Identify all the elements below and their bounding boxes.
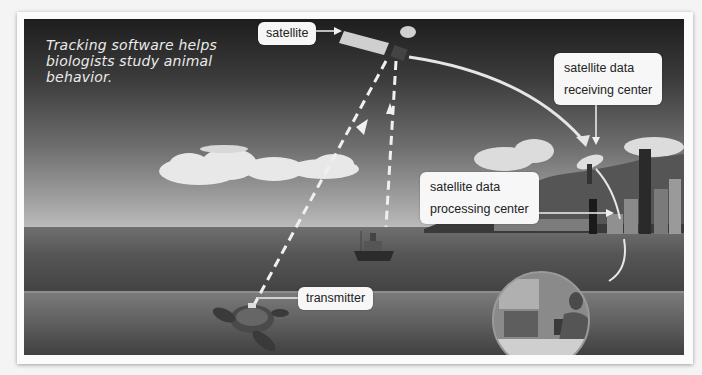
receiving-center-label: satellite data receiving center — [554, 53, 662, 105]
ship-icon — [354, 231, 394, 261]
tracking-diagram: Tracking software helps biologists study… — [24, 19, 684, 355]
transmitter-label: transmitter — [298, 287, 373, 310]
processing-center-line2: processing center — [430, 198, 529, 220]
uplink-arrow-1 — [356, 119, 368, 135]
receiving-center-line1: satellite data — [564, 57, 652, 79]
signal-paths — [254, 61, 396, 305]
processing-center-line1: satellite data — [430, 176, 529, 198]
processing-center-label: satellite data processing center — [420, 172, 539, 224]
processing-to-office-arrow — [609, 239, 625, 281]
receiving-center-line2: receiving center — [564, 79, 652, 101]
satellite-label: satellite — [258, 22, 316, 45]
downlink-arrowhead — [576, 135, 590, 147]
satellite-icon — [339, 26, 416, 61]
transmitter-label-text: transmitter — [306, 291, 365, 305]
diagram-caption: Tracking software helps biologists study… — [46, 37, 246, 85]
sea-turtle-icon — [211, 303, 289, 355]
cloud-left — [159, 145, 359, 185]
satellite-label-text: satellite — [266, 26, 308, 40]
